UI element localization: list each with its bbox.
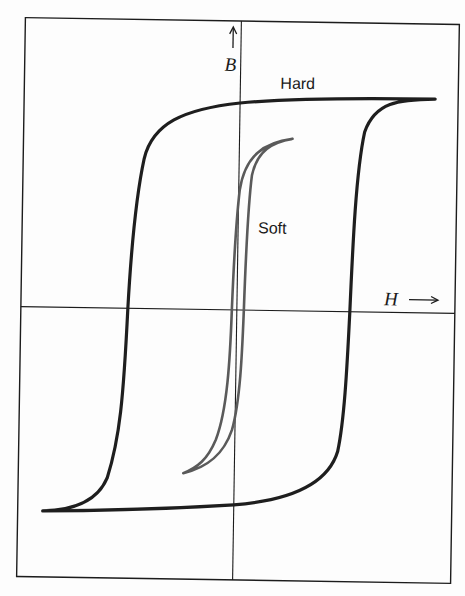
hysteresis-plot: B H Hard Soft: [0, 0, 465, 596]
soft-curve-label: Soft: [258, 219, 287, 236]
hysteresis-figure: B H Hard Soft: [0, 0, 465, 596]
right-arrow-icon: [409, 296, 438, 303]
b-axis-label: B: [225, 54, 237, 75]
up-arrow-icon: [229, 27, 236, 48]
h-axis-label: H: [383, 288, 399, 309]
soft-loop-curve: [183, 137, 292, 475]
hard-curve-label: Hard: [280, 75, 315, 93]
